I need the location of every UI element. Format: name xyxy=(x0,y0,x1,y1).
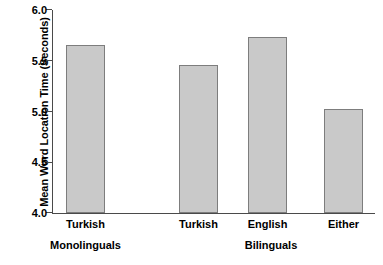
bar-1 xyxy=(66,45,105,213)
bar-chart-figure: Mean Word Location Time (Seconds) 6.05.5… xyxy=(0,0,383,265)
group-label-1: Monolinguals xyxy=(26,239,146,251)
x-axis-label-4: Either xyxy=(294,218,383,230)
bar-4 xyxy=(324,109,363,213)
group-label-2: Bilinguals xyxy=(211,239,331,251)
bar-3 xyxy=(248,37,287,213)
x-axis-label-1: Turkish xyxy=(36,218,136,230)
bar-2 xyxy=(179,65,218,213)
